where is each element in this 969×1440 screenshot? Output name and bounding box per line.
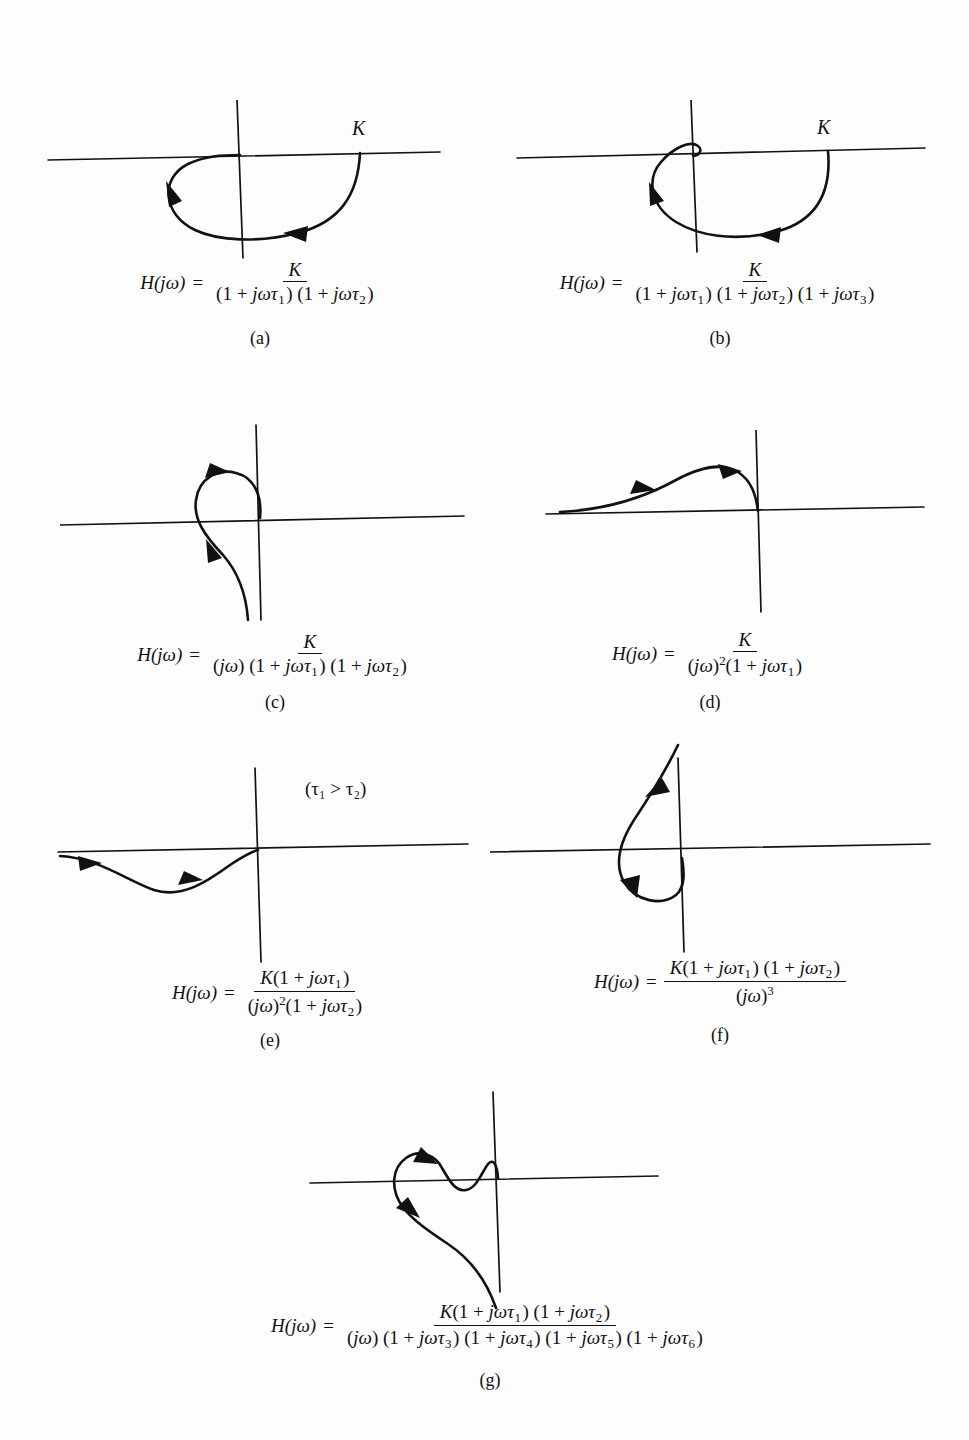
formula-equals: = [192,273,210,293]
formula-numerator: K(1 + jωτ1 ) (1 + jωτ2 ) [664,958,846,982]
arrow-head [718,464,742,479]
panel-g-plot [280,1040,700,1310]
formula-numerator: K(1 + jωτ1 ) (1 + jωτ2 ) [434,1302,616,1326]
arrow-head [178,871,203,885]
formula-lhs: H(jω) [140,273,192,293]
arrow-head [78,856,102,871]
nyquist-curve-e [60,850,258,892]
panel-c-caption: (c) [60,692,490,713]
formula-equals: = [189,645,207,665]
imaginary-axis [256,425,261,620]
formula-numerator: K [743,260,768,282]
formula-equals: = [664,644,682,664]
panel-d-plot [480,430,940,640]
panel-d-caption: (d) [480,692,940,713]
imaginary-axis [756,430,761,612]
imaginary-axis [678,758,684,952]
figure-page: K H(jω) = K (1 + jωτ1 ) (1 + jωτ2 ) (a) [0,0,969,1440]
panel-a-caption: (a) [40,328,480,349]
real-axis [490,844,930,852]
k-label-b: K [817,116,830,139]
formula-b: H(jω) = K (1 + jωτ1 ) (1 + jωτ2 ) (1 + j… [495,260,945,306]
real-axis [310,1176,658,1183]
formula-lhs: H(jω) [560,273,612,293]
real-axis [517,148,925,158]
formula-fraction: K (1 + jωτ1 ) (1 + jωτ2 ) [210,260,380,306]
real-axis [58,844,468,852]
formula-denominator: (jω)2(1 + jωτ1 ) [682,652,808,678]
formula-c: H(jω) = K (jω) (1 + jωτ1 ) (1 + jωτ2 ) [60,632,490,678]
formula-fraction: K(1 + jωτ1 ) (1 + jωτ2 ) (jω) (1 + jωτ3 … [341,1302,709,1351]
panel-a: K H(jω) = K (1 + jωτ1 ) (1 + jωτ2 ) (a) [40,100,480,375]
formula-denominator: (jω)2(1 + jωτ2 ) [242,992,368,1018]
panel-e-plot [50,740,490,970]
arrow-head [166,181,182,207]
formula-fraction: K (1 + jωτ1 ) (1 + jωτ2 ) (1 + jωτ3 ) [630,260,881,306]
nyquist-curve-a [169,153,360,239]
imaginary-axis [255,768,261,962]
real-axis [48,152,440,160]
tau-condition-note: (τ₁ > τ₂) [305,778,366,800]
panel-g: H(jω) = K(1 + jωτ1 ) (1 + jωτ2 ) (jω) (1… [190,1040,790,1430]
panel-b-caption: (b) [495,328,945,349]
panel-g-caption: (g) [190,1370,790,1391]
formula-lhs: H(jω) [594,972,646,992]
formula-fraction: K (jω)2(1 + jωτ1 ) [682,630,808,678]
k-label-a: K [352,117,365,140]
arrow-head [649,182,664,206]
formula-fraction: K(1 + jωτ1 ) (jω)2(1 + jωτ2 ) [242,968,368,1019]
nyquist-curve-c [196,472,261,620]
formula-lhs: H(jω) [172,983,224,1003]
arrow-head [757,227,781,243]
real-axis [60,516,464,525]
formula-numerator: K [298,632,323,654]
panel-f-plot [490,740,950,960]
formula-e: H(jω) = K(1 + jωτ1 ) (jω)2(1 + jωτ2 ) [50,968,490,1019]
formula-denominator: (jω)3 [730,982,780,1006]
arrow-head [413,1147,438,1164]
formula-fraction: K(1 + jωτ1 ) (1 + jωτ2 ) (jω)3 [664,958,846,1006]
panel-f: H(jω) = K(1 + jωτ1 ) (1 + jωτ2 ) (jω)3 (… [490,740,950,1040]
panel-e: (τ₁ > τ₂) H(jω) = K(1 + jωτ1 ) (jω)2(1 +… [50,740,490,1040]
formula-d: H(jω) = K (jω)2(1 + jωτ1 ) [480,630,940,678]
formula-f: H(jω) = K(1 + jωτ1 ) (1 + jωτ2 ) (jω)3 [490,958,950,1006]
panel-c: H(jω) = K (jω) (1 + jωτ1 ) (1 + jωτ2 ) (… [60,420,490,720]
formula-numerator: K(1 + jωτ1 ) [254,968,355,992]
imaginary-axis [237,100,243,258]
formula-fraction: K (jω) (1 + jωτ1 ) (1 + jωτ2 ) [207,632,413,678]
formula-denominator: (jω) (1 + jωτ3 ) (1 + jωτ4 ) (1 + jωτ5 )… [341,1326,709,1350]
nyquist-curve-g [394,1153,498,1308]
imaginary-axis [493,1092,500,1292]
arrow-head [283,226,308,242]
formula-a: H(jω) = K (1 + jωτ1 ) (1 + jωτ2 ) [40,260,480,306]
formula-lhs: H(jω) [271,1316,323,1336]
nyquist-curve-f [619,745,684,901]
formula-g: H(jω) = K(1 + jωτ1 ) (1 + jωτ2 ) (jω) (1… [190,1302,790,1351]
formula-lhs: H(jω) [137,645,189,665]
panel-b: K H(jω) = K (1 + jωτ1 ) (1 + jωτ2 ) (1 +… [495,100,945,375]
panel-c-plot [60,420,490,650]
formula-numerator: K [733,630,758,652]
formula-numerator: K [283,260,308,282]
panel-d: H(jω) = K (jω)2(1 + jωτ1 ) (d) [480,430,940,720]
formula-denominator: (jω) (1 + jωτ1 ) (1 + jωτ2 ) [207,654,413,678]
arrow-head [205,463,230,478]
formula-equals: = [646,972,664,992]
formula-equals: = [323,1316,341,1336]
formula-denominator: (1 + jωτ1 ) (1 + jωτ2 ) [210,282,380,306]
formula-denominator: (1 + jωτ1 ) (1 + jωτ2 ) (1 + jωτ3 ) [630,282,881,306]
formula-lhs: H(jω) [612,644,664,664]
formula-equals: = [224,983,242,1003]
nyquist-curve-b [652,144,828,237]
formula-equals: = [612,273,630,293]
